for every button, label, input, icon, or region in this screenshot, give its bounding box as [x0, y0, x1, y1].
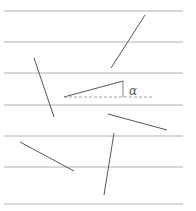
parallel-lines: [4, 11, 183, 204]
angle-label: α: [129, 84, 137, 98]
needle: [108, 114, 167, 130]
needle: [104, 133, 114, 195]
diagram-canvas: α: [0, 0, 196, 211]
needle: [34, 58, 54, 117]
buffon-needle-diagram: α: [0, 0, 196, 211]
needle: [64, 81, 123, 97]
